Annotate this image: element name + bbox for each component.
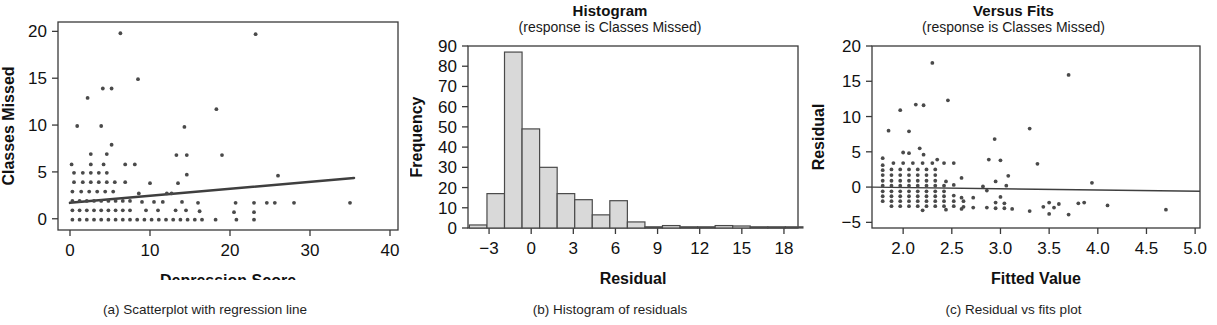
data-point: [898, 179, 902, 183]
data-point: [1002, 206, 1006, 210]
histogram-bar: [505, 52, 523, 228]
x-tick-label: 3.5: [1037, 239, 1061, 258]
histogram-bars: [469, 52, 803, 228]
data-point: [890, 204, 894, 208]
x-tick-label: 20: [221, 241, 240, 260]
data-point: [214, 218, 218, 222]
data-point: [911, 161, 915, 165]
data-point: [85, 208, 89, 212]
y-tick-label: 15: [28, 69, 47, 88]
data-point: [933, 168, 937, 172]
data-point: [107, 218, 111, 222]
data-point: [113, 180, 117, 184]
data-point: [174, 208, 178, 212]
data-point: [196, 201, 200, 205]
panel-b-histogram: Histogram (response is Classes Missed) −…: [410, 0, 810, 325]
data-point: [265, 201, 269, 205]
data-point: [200, 218, 204, 222]
data-point: [114, 208, 118, 212]
data-point: [994, 206, 998, 210]
data-point: [95, 190, 99, 194]
data-point: [185, 173, 189, 177]
y-tick-label: 0: [852, 178, 861, 197]
data-point: [916, 184, 920, 188]
y-tick-label: 90: [438, 38, 457, 56]
y-tick-label: 10: [438, 199, 457, 218]
panel-a-scatterplot: 01020304005101520Depression ScoreClasses…: [0, 0, 410, 325]
data-point: [78, 208, 82, 212]
data-point: [1047, 201, 1051, 205]
panel-a-caption: (a) Scatterplot with regression line: [0, 302, 410, 317]
data-point: [935, 158, 939, 162]
data-point: [137, 192, 141, 196]
data-point: [220, 153, 224, 157]
data-point: [881, 199, 885, 203]
histogram-bar: [662, 226, 680, 228]
x-tick-label: 9: [653, 239, 662, 258]
data-point: [1002, 201, 1006, 205]
panel-a-plot: 01020304005101520Depression ScoreClasses…: [0, 0, 410, 280]
histogram-bar: [750, 227, 768, 228]
y-tick-label: 80: [438, 57, 457, 76]
data-point: [79, 190, 83, 194]
data-point: [292, 201, 296, 205]
histogram-bar: [627, 222, 645, 228]
x-axis-label: Residual: [600, 270, 667, 287]
data-point: [890, 194, 894, 198]
data-point: [898, 194, 902, 198]
data-point: [994, 180, 998, 184]
data-point: [942, 184, 946, 188]
data-point: [140, 200, 144, 204]
data-point: [922, 153, 926, 157]
data-point: [907, 184, 911, 188]
data-point: [92, 208, 96, 212]
data-point: [89, 180, 93, 184]
data-point: [999, 158, 1003, 162]
data-point: [110, 143, 114, 147]
data-point: [921, 161, 925, 165]
data-point: [993, 137, 997, 141]
data-point: [78, 199, 82, 203]
data-point: [176, 181, 180, 185]
data-point: [72, 180, 76, 184]
data-point: [942, 189, 946, 193]
data-point: [898, 173, 902, 177]
data-point: [925, 189, 929, 193]
histogram-bar: [680, 227, 698, 228]
data-point: [907, 129, 911, 133]
data-point: [994, 201, 998, 205]
data-point: [114, 199, 118, 203]
data-point: [933, 184, 937, 188]
data-point: [1106, 204, 1110, 208]
data-point: [114, 218, 118, 222]
panel-c-versus-fits: Versus Fits (response is Classes Missed)…: [810, 0, 1217, 325]
data-point: [890, 168, 894, 172]
data-point: [152, 200, 156, 204]
data-point: [150, 218, 154, 222]
data-point: [171, 218, 175, 222]
data-point: [164, 218, 168, 222]
data-point: [942, 161, 946, 165]
histogram-bar: [557, 194, 575, 228]
data-point: [86, 96, 90, 100]
y-tick-label: 0: [448, 219, 457, 238]
data-point: [971, 206, 975, 210]
data-point: [881, 163, 885, 167]
data-point: [136, 77, 140, 81]
x-tick-label: 30: [301, 241, 320, 260]
x-tick-label: 4.0: [1086, 239, 1110, 258]
data-point: [157, 218, 161, 222]
data-point: [916, 168, 920, 172]
data-point: [92, 218, 96, 222]
data-point: [952, 183, 956, 187]
data-point: [907, 168, 911, 172]
y-axis-label: Classes Missed: [0, 66, 17, 185]
histogram-bar: [645, 227, 663, 228]
scatter-points: [881, 61, 1168, 216]
data-point: [85, 218, 89, 222]
data-point: [987, 158, 991, 162]
y-tick-label: 10: [28, 116, 47, 135]
data-point: [933, 199, 937, 203]
data-point: [156, 208, 160, 212]
data-point: [193, 218, 197, 222]
